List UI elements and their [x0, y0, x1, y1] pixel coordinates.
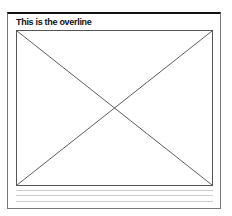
- overline: This is the overline: [16, 17, 92, 28]
- text-line-placeholder: [16, 195, 213, 196]
- card: This is the overline: [7, 12, 221, 209]
- image-placeholder: [16, 30, 213, 186]
- image-placeholder-icon: [17, 31, 212, 185]
- text-line-placeholder: [16, 190, 213, 191]
- text-line-placeholder: [16, 201, 213, 202]
